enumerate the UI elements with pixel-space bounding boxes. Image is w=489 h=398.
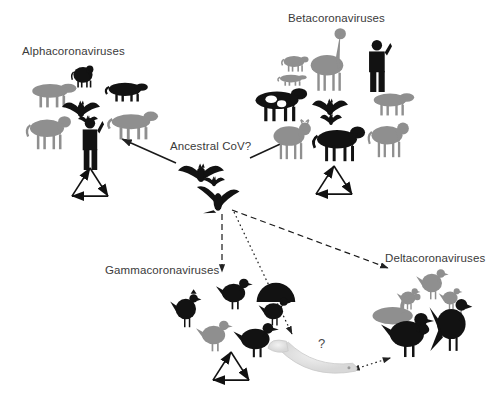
ancestral-cov-label: Ancestral CoV?: [170, 140, 251, 152]
mouse-icon: [282, 56, 309, 72]
bird-flying-icon: [197, 186, 240, 213]
human-icon: [83, 118, 104, 170]
whale-icon: [268, 340, 357, 373]
quail-icon: [196, 321, 233, 352]
cow-icon: [256, 88, 308, 121]
cluster-label-delta: Deltacoronaviruses: [385, 252, 485, 264]
cluster-label-alpha: Alphacoronaviruses: [22, 45, 125, 57]
raccoon-dog-icon: [108, 112, 158, 140]
human-icon: [369, 40, 392, 92]
recombination-symbol-gamma: [213, 352, 249, 380]
recombination-symbol-alpha: [72, 168, 108, 196]
parrot-icon: [429, 299, 472, 351]
cluster-label-gamma: Gammacoronaviruses: [105, 264, 219, 276]
bat-icon: [203, 176, 225, 186]
rat-icon: [278, 75, 307, 86]
pig-icon: [374, 93, 414, 115]
ferret-icon: [106, 83, 148, 102]
turkey-icon: [257, 283, 296, 326]
giraffe-icon: [311, 28, 346, 91]
pheasant-icon: [233, 323, 278, 357]
unknown-host-question-mark: ?: [318, 336, 325, 351]
deer-icon: [273, 120, 310, 159]
bat-icon: [62, 100, 100, 117]
bat-icon: [312, 98, 348, 115]
rooster-icon: [170, 289, 201, 327]
cat-icon: [72, 65, 94, 87]
recombination-symbol-beta: [316, 166, 352, 194]
diagram-vector-layer: [0, 0, 489, 398]
bat-icon: [320, 113, 342, 125]
duck-icon: [216, 279, 253, 310]
cluster-label-beta: Betacoronaviruses: [288, 12, 385, 24]
arrow-delta-to-whale: [352, 358, 390, 370]
dog-icon: [369, 122, 409, 157]
dog-icon: [27, 116, 71, 149]
horse-icon: [313, 126, 365, 161]
arrow-ancestral-to-delta: [232, 210, 388, 268]
arrow-ancestral-to-whale: [234, 212, 292, 334]
arrow-ancestral-to-alpha: [122, 139, 176, 163]
